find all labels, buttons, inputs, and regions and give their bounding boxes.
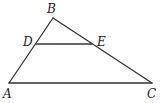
vertex-label-E: E <box>96 35 106 49</box>
vertex-label-B: B <box>46 2 56 16</box>
geometry-diagram: ABCDE <box>0 0 167 103</box>
segment-AB <box>9 18 53 83</box>
triangle-figure: ABCDE <box>0 0 167 103</box>
vertex-label-D: D <box>22 35 33 49</box>
vertex-label-A: A <box>2 87 12 101</box>
vertex-label-C: C <box>147 87 156 101</box>
segment-BC <box>53 18 152 83</box>
